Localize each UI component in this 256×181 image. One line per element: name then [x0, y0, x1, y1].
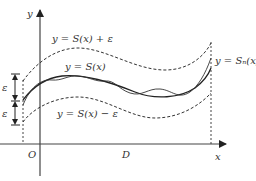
approximation-label: y = Sₙ(x): [214, 55, 256, 66]
epsilon-label-top: ε: [2, 82, 7, 93]
domain-label: D: [121, 149, 130, 160]
target-function-label: y = S(x): [64, 61, 106, 72]
x-axis-label: x: [215, 151, 221, 162]
origin-label: O: [28, 149, 36, 160]
upper-bound-label: y = S(x) + ε: [51, 33, 113, 44]
lower-bound-label: y = S(x) − ε: [56, 108, 118, 119]
y-axis-label: y: [26, 8, 33, 19]
diagram-canvas: y y = S(x) + ε y = S(x) y = S(x) − ε y =…: [0, 0, 256, 181]
epsilon-marker-bottom: [11, 101, 20, 125]
epsilon-label-bottom: ε: [2, 108, 7, 119]
epsilon-marker-top: [11, 74, 20, 101]
approximation-curve: [23, 58, 211, 105]
upper-bound-curve: [23, 43, 211, 81]
